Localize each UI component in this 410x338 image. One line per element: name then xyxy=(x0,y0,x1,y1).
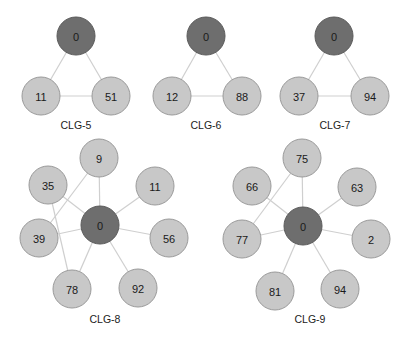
node-label: 37 xyxy=(293,91,305,103)
node-label: 12 xyxy=(166,91,178,103)
node-label: 2 xyxy=(368,234,374,246)
leaf-node: 66 xyxy=(233,167,271,205)
node-label: 0 xyxy=(203,31,209,43)
node-label: 9 xyxy=(96,153,102,165)
node-label: 75 xyxy=(296,153,308,165)
leaf-node: 35 xyxy=(29,166,67,204)
node-label: 63 xyxy=(351,182,363,194)
node-label: 56 xyxy=(163,233,175,245)
leaf-node: 9 xyxy=(80,139,118,177)
node-label: 77 xyxy=(236,234,248,246)
center-node: 0 xyxy=(284,207,322,245)
graph-caption: CLG-9 xyxy=(295,313,326,325)
graph-clg-5: 01151CLG-5 xyxy=(22,17,130,131)
leaf-node: 81 xyxy=(256,272,294,310)
node-label: 0 xyxy=(73,31,79,43)
graph-clg-9: 07566637728194CLG-9 xyxy=(223,139,390,325)
leaf-node: 51 xyxy=(92,77,130,115)
node-label: 94 xyxy=(364,91,376,103)
graph-caption: CLG-7 xyxy=(320,119,351,131)
graph-clg-8: 09351139567892CLG-8 xyxy=(20,139,188,325)
leaf-node: 94 xyxy=(321,270,359,308)
center-node: 0 xyxy=(81,206,119,244)
node-label: 94 xyxy=(334,284,346,296)
leaf-node: 39 xyxy=(20,219,58,257)
leaf-node: 12 xyxy=(153,77,191,115)
graph-clg-7: 03794CLG-7 xyxy=(280,17,389,131)
graph-caption: CLG-5 xyxy=(61,119,92,131)
graph-clg-6: 01288CLG-6 xyxy=(153,17,261,131)
node-label: 78 xyxy=(66,284,78,296)
node-label: 0 xyxy=(97,220,103,232)
leaf-node: 75 xyxy=(283,139,321,177)
node-label: 88 xyxy=(236,91,248,103)
leaf-node: 88 xyxy=(223,77,261,115)
graph-caption: CLG-8 xyxy=(90,313,121,325)
leaf-node: 11 xyxy=(136,167,174,205)
node-label: 81 xyxy=(269,286,281,298)
leaf-node: 2 xyxy=(352,220,390,258)
graph-canvas: 01151CLG-501288CLG-603794CLG-70935113956… xyxy=(0,0,410,338)
leaf-node: 37 xyxy=(280,77,318,115)
leaf-node: 77 xyxy=(223,220,261,258)
leaf-node: 78 xyxy=(53,270,91,308)
leaf-node: 94 xyxy=(351,77,389,115)
center-node: 0 xyxy=(187,17,225,55)
leaf-node: 92 xyxy=(119,269,157,307)
graph-caption: CLG-6 xyxy=(191,119,222,131)
leaf-node: 56 xyxy=(150,219,188,257)
node-label: 66 xyxy=(246,181,258,193)
node-label: 11 xyxy=(35,91,46,103)
leaf-node: 11 xyxy=(22,77,60,115)
node-label: 39 xyxy=(33,233,45,245)
node-label: 35 xyxy=(42,180,54,192)
node-label: 51 xyxy=(105,91,117,103)
node-label: 92 xyxy=(132,283,144,295)
node-label: 0 xyxy=(300,221,306,233)
node-label: 11 xyxy=(149,181,160,193)
node-label: 0 xyxy=(331,31,337,43)
leaf-node: 63 xyxy=(338,168,376,206)
center-node: 0 xyxy=(315,17,353,55)
center-node: 0 xyxy=(57,17,95,55)
